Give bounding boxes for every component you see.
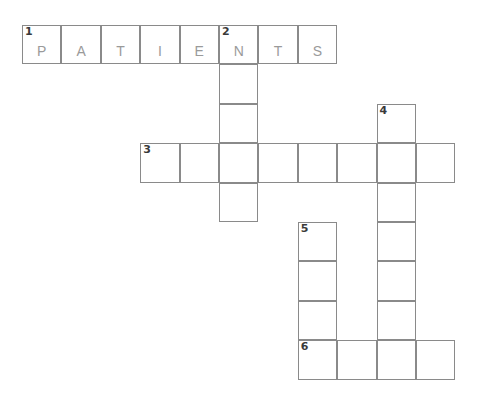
crossword-cell[interactable]: S	[298, 25, 337, 64]
crossword-cell[interactable]: 1P	[22, 25, 61, 64]
crossword-cell[interactable]: I	[140, 25, 179, 64]
cell-number: 5	[301, 223, 309, 235]
crossword-cell[interactable]: A	[61, 25, 100, 64]
crossword-grid: 1PATIE2NTS4356	[0, 0, 480, 395]
crossword-cell[interactable]	[219, 183, 258, 222]
crossword-cell[interactable]	[219, 143, 258, 182]
cell-letter: N	[220, 44, 257, 58]
crossword-cell[interactable]	[377, 143, 416, 182]
crossword-cell[interactable]	[337, 143, 376, 182]
cell-number: 4	[380, 105, 388, 117]
crossword-cell[interactable]: 3	[140, 143, 179, 182]
crossword-cell[interactable]	[337, 340, 376, 379]
crossword-cell[interactable]: E	[180, 25, 219, 64]
crossword-cell[interactable]: 4	[377, 104, 416, 143]
crossword-cell[interactable]: 5	[298, 222, 337, 261]
crossword-cell[interactable]	[258, 143, 297, 182]
crossword-cell[interactable]	[377, 301, 416, 340]
crossword-cell[interactable]	[298, 143, 337, 182]
cell-number: 2	[222, 26, 230, 38]
crossword-cell[interactable]	[377, 222, 416, 261]
crossword-cell[interactable]: T	[258, 25, 297, 64]
crossword-cell[interactable]	[377, 340, 416, 379]
crossword-cell[interactable]	[377, 261, 416, 300]
crossword-cell[interactable]: 6	[298, 340, 337, 379]
crossword-cell[interactable]	[416, 340, 455, 379]
cell-letter: T	[102, 44, 139, 58]
crossword-cell[interactable]	[377, 183, 416, 222]
crossword-cell[interactable]	[298, 261, 337, 300]
crossword-cell[interactable]: 2N	[219, 25, 258, 64]
crossword-cell[interactable]	[219, 64, 258, 103]
crossword-cell[interactable]	[416, 143, 455, 182]
crossword-cell[interactable]	[219, 104, 258, 143]
cell-number: 1	[25, 26, 33, 38]
cell-letter: P	[23, 44, 60, 58]
cell-letter: S	[299, 44, 336, 58]
crossword-cell[interactable]	[298, 301, 337, 340]
cell-letter: E	[181, 44, 218, 58]
cell-letter: I	[141, 44, 178, 58]
cell-letter: A	[62, 44, 99, 58]
cell-number: 6	[301, 341, 309, 353]
crossword-cell[interactable]	[180, 143, 219, 182]
cell-letter: T	[259, 44, 296, 58]
cell-number: 3	[143, 144, 151, 156]
crossword-cell[interactable]: T	[101, 25, 140, 64]
